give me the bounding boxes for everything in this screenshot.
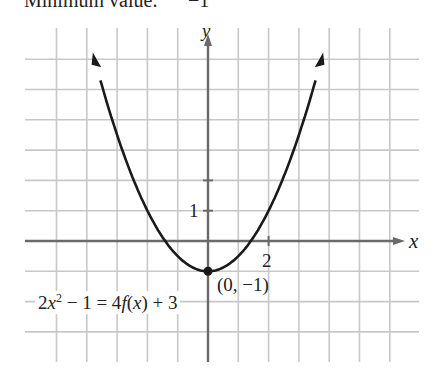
y-axis-label: y: [202, 20, 210, 42]
x-axis-label: x: [409, 229, 418, 254]
x-axis-arrow-icon: [393, 237, 405, 245]
vertex-point: [204, 267, 213, 276]
parabola-graph: [0, 0, 438, 380]
equation-label: 2x2 − 1 = 4f(x) + 3: [35, 291, 180, 314]
y-tick-label-1: 1: [189, 200, 199, 222]
x-tick-label-2: 2: [262, 250, 272, 272]
vertex-label: (0, −1): [217, 274, 269, 296]
